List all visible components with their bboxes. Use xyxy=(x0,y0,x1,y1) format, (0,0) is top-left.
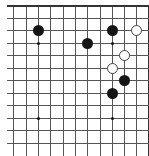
star-point xyxy=(111,42,114,45)
grid-line-horizontal xyxy=(7,43,149,44)
black-stone[interactable] xyxy=(107,25,118,36)
grid-line-horizontal xyxy=(7,18,149,19)
go-board[interactable] xyxy=(0,0,149,156)
white-stone[interactable] xyxy=(107,63,118,74)
black-stone[interactable] xyxy=(33,25,44,36)
star-point xyxy=(111,117,114,120)
black-stone[interactable] xyxy=(107,88,118,99)
grid-line-horizontal xyxy=(7,68,149,69)
grid-line-horizontal xyxy=(7,130,149,131)
grid-line-horizontal xyxy=(7,30,149,31)
black-stone[interactable] xyxy=(119,75,130,86)
grid-line-horizontal xyxy=(7,93,149,94)
star-point xyxy=(37,42,40,45)
grid-line-horizontal xyxy=(7,105,149,106)
white-stone[interactable] xyxy=(119,50,130,61)
black-stone[interactable] xyxy=(82,38,93,49)
grid-line-horizontal xyxy=(7,118,149,119)
white-stone[interactable] xyxy=(131,25,142,36)
star-point xyxy=(37,117,40,120)
grid-line-horizontal xyxy=(7,143,149,144)
board-top-edge xyxy=(7,5,149,7)
